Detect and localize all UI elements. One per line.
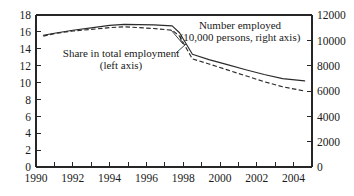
share-employment-annotation-line2: (left axis) xyxy=(100,59,143,72)
y2-tick-label-6000: 6000 xyxy=(317,85,340,97)
y-tick-label-8: 8 xyxy=(25,94,31,106)
y2-tick-label-4000: 4000 xyxy=(317,111,340,123)
y2-tick-label-2000: 2000 xyxy=(317,136,340,148)
x-tick-label-2004: 2004 xyxy=(282,172,305,184)
y-tick-label-10: 10 xyxy=(20,77,32,89)
number-employed-annotation-line1: Number employed xyxy=(199,19,282,31)
x-tick-label-1992: 1992 xyxy=(61,172,84,184)
x-tick-label-1990: 1990 xyxy=(25,172,48,184)
y-tick-label-16: 16 xyxy=(20,26,32,38)
line-chart: 0 2 4 6 8 10 12 14 16 18 0 2000 4000 600… xyxy=(0,0,354,196)
x-tick-label-2000: 2000 xyxy=(209,172,232,184)
y-tick-label-12: 12 xyxy=(20,60,32,72)
x-axis-ticks: 1990 1992 1994 1996 1998 2000 2002 2004 xyxy=(25,162,313,184)
right-axis-ticks: 0 2000 4000 6000 8000 10000 12000 xyxy=(307,9,346,173)
chart-container: 0 2 4 6 8 10 12 14 16 18 0 2000 4000 600… xyxy=(0,0,354,196)
share-employment-annotation-line1: Share in total employment xyxy=(63,47,179,59)
x-tick-label-1998: 1998 xyxy=(172,172,195,184)
y2-tick-label-12000: 12000 xyxy=(317,9,346,21)
x-tick-label-1996: 1996 xyxy=(135,172,158,184)
y2-tick-label-8000: 8000 xyxy=(317,60,340,72)
y-tick-label-18: 18 xyxy=(20,9,32,21)
y-tick-label-2: 2 xyxy=(25,144,31,156)
y-tick-label-4: 4 xyxy=(25,127,31,139)
y2-tick-label-0: 0 xyxy=(317,161,323,173)
y2-tick-label-10000: 10000 xyxy=(317,35,346,47)
x-tick-label-1994: 1994 xyxy=(98,172,121,184)
y-tick-label-14: 14 xyxy=(20,43,32,55)
number-employed-annotation: Number employed (10,000 persons, right a… xyxy=(171,19,301,44)
number-employed-annotation-line2: (10,000 persons, right axis) xyxy=(180,31,301,44)
y-tick-label-6: 6 xyxy=(25,111,31,123)
share-employment-annotation: Share in total employment (left axis) xyxy=(63,44,186,72)
x-tick-label-2002: 2002 xyxy=(245,172,268,184)
left-axis-ticks: 0 2 4 6 8 10 12 14 16 18 xyxy=(20,9,42,173)
